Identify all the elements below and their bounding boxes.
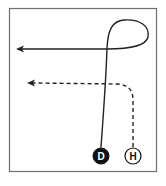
diagram-frame [10,9,157,172]
node-d: D [93,148,109,164]
dashed-path [33,83,133,147]
diagram-canvas: D H [0,0,166,186]
node-h: H [125,148,141,164]
node-h-label: H [129,151,136,162]
node-d-label: D [97,151,104,162]
